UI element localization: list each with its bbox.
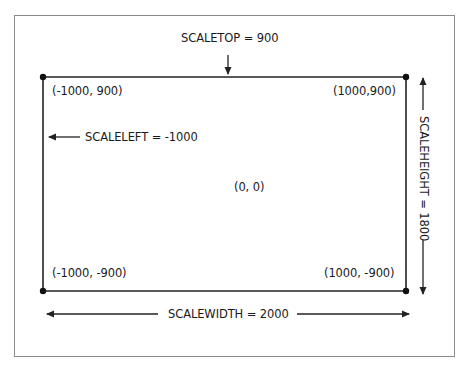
corner-label-top-right: (1000,900) — [333, 85, 396, 98]
scaleleft-label: SCALELEFT = -1000 — [85, 131, 198, 144]
corner-dot-bottom-right — [403, 288, 409, 294]
corner-label-bottom-right: (1000, -900) — [324, 267, 394, 280]
scalewidth-label: SCALEWIDTH = 2000 — [168, 308, 289, 321]
center-origin-label: (0, 0) — [234, 181, 264, 194]
corner-label-top-left: (-1000, 900) — [52, 85, 122, 98]
corner-dot-bottom-left — [40, 288, 46, 294]
corner-dot-top-right — [403, 74, 409, 80]
scaletop-label: SCALETOP = 900 — [181, 32, 278, 45]
coordinate-rectangle — [43, 77, 406, 291]
corner-dot-top-left — [40, 74, 46, 80]
scaleheight-label: SCALEHEIGHT = 1800 — [417, 116, 430, 241]
corner-label-bottom-left: (-1000, -900) — [52, 267, 127, 280]
